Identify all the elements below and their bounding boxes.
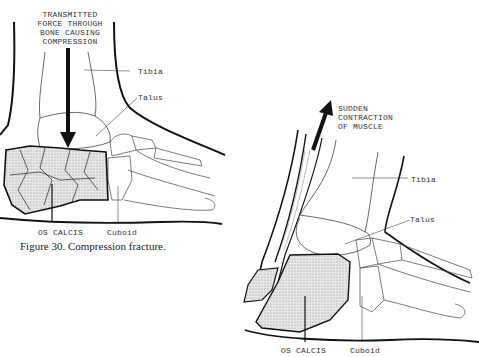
left-foot-figure bbox=[0, 22, 225, 224]
force-annotation: TRANSMITTED FORCE THROUGH BONE CAUSING C… bbox=[30, 10, 110, 46]
figure-caption: Figure 30. Compression fracture. bbox=[20, 240, 166, 252]
left-talus-label: Talus bbox=[138, 93, 163, 102]
right-cuboid-label: Cuboid bbox=[350, 346, 380, 355]
diagram-stage: TRANSMITTED FORCE THROUGH BONE CAUSING C… bbox=[0, 0, 479, 357]
muscle-annotation: SUDDEN CONTRACTION OF MUSCLE bbox=[338, 104, 393, 131]
right-tibia-label: Tibia bbox=[411, 175, 436, 184]
foot-diagrams-svg bbox=[0, 0, 479, 357]
right-os-calcis-label: OS CALCIS bbox=[281, 346, 326, 355]
left-cuboid-label: Cuboid bbox=[107, 228, 137, 237]
right-talus-label: Talus bbox=[410, 215, 435, 224]
left-os-calcis-label: OS CALCIS bbox=[38, 228, 83, 237]
right-foot-figure bbox=[244, 100, 479, 342]
left-tibia-label: Tibia bbox=[138, 67, 163, 76]
